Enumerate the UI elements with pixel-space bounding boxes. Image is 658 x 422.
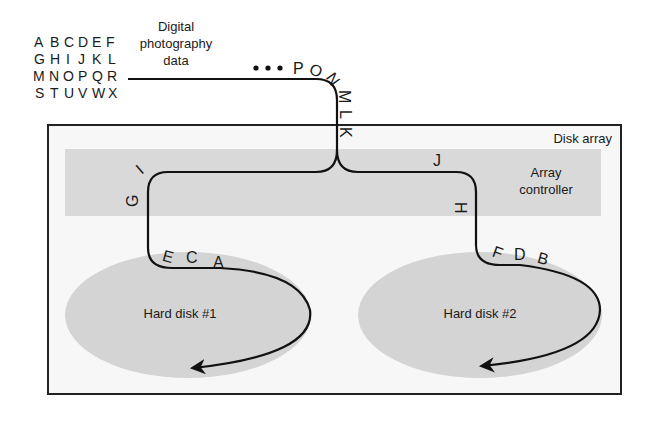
svg-text:N: N: [323, 69, 344, 88]
svg-text:P: P: [78, 68, 87, 84]
svg-text:E: E: [92, 34, 101, 50]
right-branch-letter-h: H: [452, 202, 469, 214]
svg-text:A: A: [213, 254, 224, 271]
svg-text:G: G: [34, 51, 45, 67]
svg-text:X: X: [108, 85, 118, 101]
array-controller-label-2: controller: [519, 182, 573, 197]
svg-text:M: M: [336, 90, 353, 103]
svg-text:L: L: [337, 110, 354, 119]
source-label-line-2: photography: [140, 36, 213, 51]
svg-text:L: L: [108, 51, 116, 67]
svg-text:P: P: [293, 60, 304, 77]
hard-disk-1-label: Hard disk #1: [144, 306, 217, 321]
left-branch-letter-g: G: [124, 195, 141, 207]
array-controller-label-1: Array: [530, 165, 562, 180]
svg-text:S: S: [35, 85, 44, 101]
right-branch-letter-j: J: [433, 152, 441, 169]
svg-text:M: M: [33, 68, 45, 84]
svg-text:J: J: [78, 51, 85, 67]
svg-text:B: B: [50, 34, 59, 50]
source-label-line-3: data: [163, 53, 189, 68]
hard-disk-2-label: Hard disk #2: [444, 306, 517, 321]
svg-text:N: N: [49, 68, 59, 84]
svg-text:W: W: [92, 85, 106, 101]
svg-text:D: D: [78, 34, 88, 50]
svg-text:Q: Q: [92, 68, 103, 84]
svg-text:C: C: [64, 34, 74, 50]
disk-array-title: Disk array: [553, 131, 612, 146]
svg-text:V: V: [78, 85, 88, 101]
svg-text:O: O: [63, 68, 74, 84]
svg-text:A: A: [34, 34, 44, 50]
source-label-line-1: Digital: [158, 19, 194, 34]
svg-text:R: R: [107, 68, 117, 84]
svg-text:H: H: [50, 51, 60, 67]
letter-grid: A B C D E F G H I J K L M N O P Q R S T …: [33, 34, 118, 101]
svg-text:D: D: [514, 246, 526, 263]
svg-text:T: T: [50, 85, 59, 101]
svg-text:K: K: [337, 127, 354, 138]
svg-text:U: U: [64, 85, 74, 101]
raid-striping-diagram: Disk array Array controller Hard disk #1…: [0, 0, 658, 422]
svg-text:I: I: [66, 51, 70, 67]
svg-text:K: K: [92, 51, 102, 67]
svg-text:F: F: [106, 34, 115, 50]
stream-ellipsis: [253, 65, 282, 70]
svg-text:O: O: [307, 60, 325, 80]
svg-text:C: C: [186, 249, 198, 266]
